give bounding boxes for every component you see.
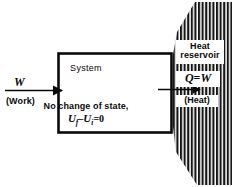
heat-reservoir-body — [172, 2, 232, 185]
heat-reservoir-line-2: reservoir — [180, 50, 219, 60]
thermodynamics-figure: System No change of state, Uf–Ui=0 W (Wo… — [0, 0, 236, 187]
heat-reservoir-name-label: Heatreservoir — [176, 40, 224, 64]
internal-energy-equation: Uf–Ui=0 — [0, 113, 172, 127]
energy-value: 0 — [99, 113, 104, 124]
q-symbol: Q — [185, 71, 194, 85]
work-caption-label: (Work) — [6, 97, 35, 106]
heat-caption-label: (Heat) — [176, 95, 218, 107]
system-label: System — [0, 64, 172, 73]
w-symbol: W — [200, 71, 211, 85]
u-final-symbol: U — [68, 112, 76, 124]
heat-equals-work-equation: Q=W — [176, 71, 220, 87]
work-symbol-label: W — [14, 76, 25, 88]
figure-canvas — [0, 0, 236, 187]
